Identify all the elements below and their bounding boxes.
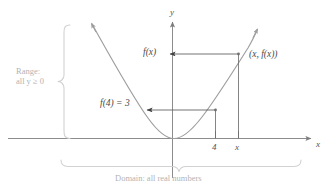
tick-label-x: x: [235, 143, 239, 152]
y-axis-label: y: [170, 8, 174, 17]
point-marker-x: [237, 53, 240, 56]
point-coordinate-label: (x, f(x)): [249, 50, 277, 60]
function-at-four-label: f(4) = 3: [100, 99, 130, 109]
domain-brace-label: Domain: all real numbers: [115, 174, 202, 183]
domain-brace: [61, 160, 301, 172]
parabola-curve: [92, 24, 257, 139]
curve-arrow-left: [92, 24, 97, 33]
point-marker-4: [214, 109, 217, 112]
range-label-line-2: all y ≥ 0: [16, 77, 44, 87]
range-brace-label: Range: all y ≥ 0: [16, 67, 44, 87]
tick-label-4: 4: [212, 143, 217, 152]
function-diagram: y x f(x) f(4) = 3 (x, f(x)) 4 x Range: a…: [0, 0, 330, 192]
curve-arrow-right: [253, 29, 258, 38]
range-brace: [58, 25, 70, 139]
x-axis-label: x: [316, 140, 320, 149]
diagram-canvas: [0, 0, 330, 192]
function-value-label: f(x): [143, 48, 156, 58]
